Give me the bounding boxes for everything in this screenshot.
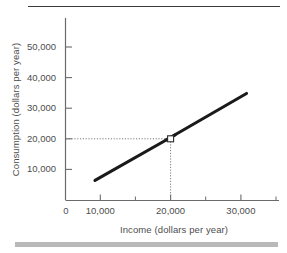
y-axis-ticks [66,47,72,169]
y-tick-label-30000: 30,000 [8,102,56,113]
x-axis-label: Income (dollars per year) [120,224,228,235]
figure-container: Consumption (dollars per year) Income (d… [0,0,287,253]
x-tick-label-10000: 10,000 [72,205,128,216]
y-tick-label-40000: 40,000 [8,72,56,83]
consumption-line-segment-upper [166,94,247,141]
x-tick-label-30000: 30,000 [213,205,269,216]
y-tick-label-10000: 10,000 [8,163,56,174]
y-tick-label-20000: 20,000 [8,133,56,144]
y-tick-label-50000: 50,000 [8,41,56,52]
bottom-divider-bar [15,242,278,247]
x-tick-label-20000: 20,000 [143,205,199,216]
marked-point-marker [168,136,174,142]
x-axis-minor-ticks [135,197,276,201]
consumption-line-segment-lower [95,135,175,180]
